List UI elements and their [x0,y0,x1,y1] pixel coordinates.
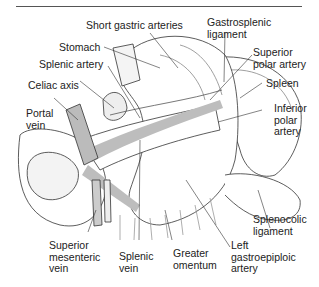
label-stomach: Stomach [59,42,100,54]
label-short-gastric-arteries: Short gastric arteries [86,20,183,32]
label-greater-omentum: Greater omentum [173,248,217,271]
smv-shape [92,180,102,226]
label-splenocolic-ligament: Splenocolic ligament [253,214,307,237]
label-splenic-artery: Splenic artery [39,59,103,71]
label-portal-vein: Portal vein [26,108,53,131]
label-splenic-vein: Splenic vein [119,251,153,274]
label-spleen: Spleen [266,78,299,90]
label-gastrosplenic-ligament: Gastrosplenic ligament [207,17,271,40]
label-celiac-axis: Celiac axis [28,80,79,92]
label-left-gastroepiploic-artery: Left gastroepiploic artery [231,240,296,275]
celiac-shape [103,92,127,120]
label-inferior-polar-artery: Inferior polar artery [274,103,307,138]
label-superior-mesenteric-vein: Superior mesenteric vein [49,240,100,275]
label-superior-polar-artery: Superior polar artery [253,47,306,70]
